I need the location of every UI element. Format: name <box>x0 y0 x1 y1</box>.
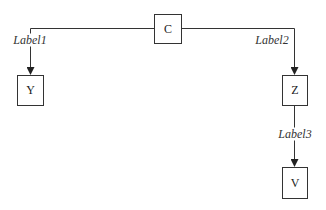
node-v: V <box>282 167 308 199</box>
edge-label-2: Label2 <box>254 34 289 47</box>
node-c-label: C <box>164 22 172 37</box>
node-c: C <box>154 14 182 44</box>
node-z-label: Z <box>291 83 298 98</box>
node-v-label: V <box>291 176 300 191</box>
node-y: Y <box>17 75 44 106</box>
edge-label-1: Label1 <box>12 34 47 47</box>
diagram-canvas: Label1 Label2 Label3 C Y Z V <box>0 0 326 210</box>
edge-c-to-y <box>31 29 155 75</box>
edge-label-3: Label3 <box>277 128 312 141</box>
node-z: Z <box>282 75 308 106</box>
node-y-label: Y <box>26 83 35 98</box>
